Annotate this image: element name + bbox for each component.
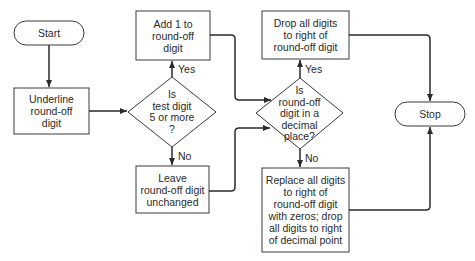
- replace-label: Replace all digits to right of round-off…: [262, 168, 349, 252]
- start-text: Start: [38, 27, 60, 39]
- decimal-label: Is round-off digit in a decimal place?: [256, 84, 343, 144]
- edge-label-test-yes: Yes: [178, 63, 195, 75]
- replace-line-3: round-off digit: [273, 198, 337, 210]
- underline-line-1: Underline: [29, 93, 74, 105]
- edge-label-decimal-yes: Yes: [305, 63, 322, 75]
- add-line-3: digit: [163, 42, 182, 54]
- drop-line-2: to right of: [284, 29, 328, 41]
- replace-line-2: to right of: [284, 186, 328, 198]
- test-label: Is test digit 5 or more ?: [128, 86, 216, 138]
- edge-replace-stop: [349, 127, 430, 210]
- start-label: Start: [14, 21, 84, 45]
- edge-drop-stop: [349, 35, 430, 101]
- add-line-1: Add 1 to: [153, 18, 192, 30]
- replace-line-6: of decimal point: [269, 234, 343, 246]
- drop-label: Drop all digits to right of round-off di…: [262, 11, 349, 59]
- stop-text: Stop: [419, 108, 441, 120]
- drop-line-3: round-off digit: [273, 41, 337, 53]
- leave-label: Leave round-off digit unchanged: [136, 166, 209, 213]
- add-label: Add 1 to round-off digit: [136, 11, 210, 60]
- test-line-1: Is: [168, 89, 176, 101]
- edge-label-decimal-no: No: [305, 152, 318, 164]
- underline-line-2: round-off: [31, 105, 73, 117]
- replace-line-1: Replace all digits: [266, 174, 345, 186]
- replace-line-5: all digits to right: [269, 222, 342, 234]
- leave-line-3: unchanged: [147, 196, 199, 208]
- underline-label: Underline round-off digit: [14, 88, 89, 134]
- stop-label: Stop: [395, 102, 465, 126]
- leave-line-1: Leave: [158, 172, 187, 184]
- add-line-2: round-off: [152, 30, 194, 42]
- leave-line-2: round-off digit: [140, 184, 204, 196]
- decimal-line-5: place?: [284, 131, 315, 143]
- edge-label-test-no: No: [178, 150, 191, 162]
- underline-line-3: digit: [42, 117, 61, 129]
- test-line-4: ?: [169, 124, 175, 136]
- test-line-3: 5 or more: [150, 112, 195, 124]
- replace-line-4: with zeros; drop: [268, 210, 342, 222]
- drop-line-1: Drop all digits: [274, 17, 338, 29]
